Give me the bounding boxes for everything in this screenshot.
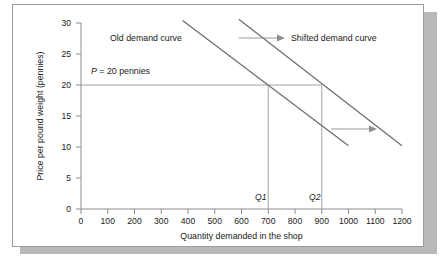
price-level-label: P = 20 pennies [91,66,151,76]
y-tick-label: 30 [61,18,71,28]
x-tick-label: 500 [208,216,223,226]
x-tick-label: 1000 [339,216,358,226]
x-tick-label: 800 [288,216,303,226]
x-tick-label: 900 [315,216,330,226]
x-tick-label: 1200 [392,216,411,226]
x-tick-label: 1100 [366,216,385,226]
x-tick-label: 300 [154,216,169,226]
x-tick-label: 600 [234,216,249,226]
x-tick-label: 400 [181,216,196,226]
y-tick-label: 5 [66,173,71,183]
x-tick-label: 700 [261,216,276,226]
x-tick-label: 0 [79,216,84,226]
old-demand-curve-label: Old demand curve [110,33,182,43]
y-tick-label: 0 [66,204,71,214]
price-value-text: = 20 pennies [97,66,151,76]
lower-shift-arrow [331,126,377,133]
y-axis-ticks [76,23,81,209]
shifted-demand-curve-label: Shifted demand curve [291,33,377,43]
y-tick-label: 15 [61,111,71,121]
x-axis-title: Quantity demanded in the shop [180,231,302,241]
y-tick-label: 20 [61,80,71,90]
y-axis-title: Price per pound weight (pennies) [35,51,45,180]
upper-shift-arrow [239,35,285,42]
q1-label: Q1 [255,192,267,202]
x-axis-ticks [81,209,402,214]
figure-root: 0 5 10 15 20 25 30 [0,0,447,271]
x-tick-label: 100 [101,216,116,226]
q2-label: Q2 [309,192,321,202]
y-tick-label: 10 [61,142,71,152]
chart-panel: 0 5 10 15 20 25 30 [12,4,424,247]
x-tick-label: 200 [127,216,142,226]
demand-curve-chart: 0 5 10 15 20 25 30 [13,5,425,248]
y-tick-label: 25 [61,49,71,59]
